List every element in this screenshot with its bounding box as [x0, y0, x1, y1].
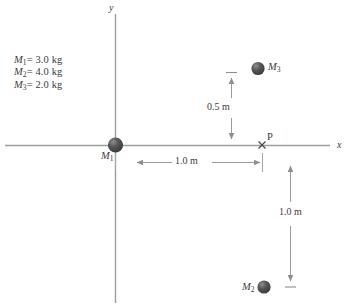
legend-row-m2: M2= 4.0 kg [14, 66, 62, 78]
dimension-label-vertical-1-0m: 1.0 m [277, 206, 304, 218]
m1-subscript: 1 [110, 154, 114, 163]
m3-subscript: 3 [277, 65, 281, 74]
mass-m2-sphere [257, 280, 270, 293]
y-axis-label: y [109, 2, 113, 14]
legend-row-m3: M3= 2.0 kg [14, 79, 62, 91]
dimension-label-0-5m: 0.5 m [205, 101, 232, 113]
dimension-1-0m-vertical [285, 166, 296, 287]
m2-subscript: 2 [251, 285, 255, 294]
point-p-label: P [267, 131, 273, 143]
legend-m3-value: = 2.0 kg [27, 79, 63, 90]
legend-m1-symbol: M [14, 54, 23, 65]
x-axis-label: x [337, 139, 341, 151]
legend-m3-symbol: M [14, 79, 23, 90]
diagram-svg [0, 0, 353, 307]
m1-symbol: M [101, 150, 110, 161]
mass-m3-label: M3 [268, 61, 281, 73]
m3-symbol: M [268, 61, 277, 72]
m2-symbol: M [242, 281, 251, 292]
mass-m3-sphere [251, 62, 264, 75]
mass-m1-label: M1 [101, 150, 114, 162]
figure-canvas: M1= 3.0 kg M2= 4.0 kg M3= 2.0 kg y x M1 … [0, 0, 353, 307]
legend-m2-value: = 4.0 kg [27, 66, 63, 77]
legend-m2-symbol: M [14, 66, 23, 77]
mass-legend: M1= 3.0 kg M2= 4.0 kg M3= 2.0 kg [14, 54, 62, 91]
dimension-label-horizontal-1-0m: 1.0 m [173, 155, 200, 167]
legend-m1-value: = 3.0 kg [27, 54, 63, 65]
legend-row-m1: M1= 3.0 kg [14, 54, 62, 66]
mass-m2-label: M2 [242, 281, 255, 293]
